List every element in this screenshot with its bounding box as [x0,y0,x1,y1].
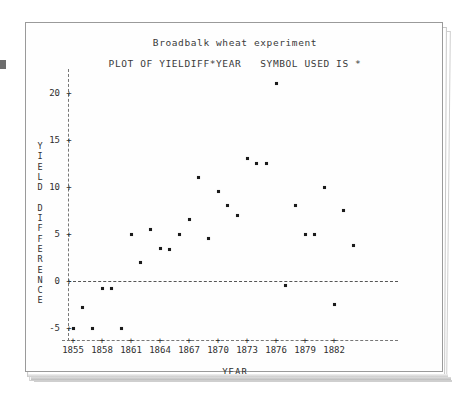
data-point [188,218,191,221]
data-point [236,214,239,217]
x-tick-mark: + [185,336,193,345]
data-point [275,82,278,85]
data-point [91,327,94,330]
data-point [352,244,355,247]
data-point [81,306,84,309]
x-tick-mark: + [156,336,164,345]
data-point [197,176,200,179]
x-tick-mark: + [98,336,106,345]
y-tick-mark: + [65,277,73,285]
data-point [139,261,142,264]
data-point [255,162,258,165]
y-tick-mark: + [65,89,73,97]
x-tick-mark: + [69,336,77,345]
data-point [226,204,229,207]
data-point [323,186,326,189]
x-tick-mark: + [272,336,280,345]
data-point [217,190,220,193]
y-tick-label: -5 [34,324,60,333]
data-point [246,157,249,160]
data-point [284,284,287,287]
plot-sheet: Broadbalk wheat experiment PLOT OF YIELD… [26,23,444,373]
x-tick-mark: + [301,336,309,345]
data-point [294,204,297,207]
data-point [178,233,181,236]
zero-reference-line [68,281,398,282]
data-point [120,327,123,330]
data-point [168,248,171,251]
data-point [72,327,75,330]
plot-area: +20+15+10+5+0+-5 +1855+1858+1861+1864+18… [26,23,444,373]
data-point [149,228,152,231]
paper-sheet-front: Broadbalk wheat experiment PLOT OF YIELD… [25,22,443,372]
paper-edge-shadow-3 [34,380,452,382]
data-point [130,233,133,236]
data-point [342,209,345,212]
data-point [265,162,268,165]
x-tick-label: 1882 [317,345,351,355]
data-point [313,233,316,236]
x-tick-mark: + [127,336,135,345]
y-tick-mark: + [65,136,73,144]
paper-stack: Broadbalk wheat experiment PLOT OF YIELD… [25,22,443,372]
x-axis-line [62,340,398,341]
y-tick-mark: + [65,230,73,238]
x-tick-mark: + [243,336,251,345]
y-axis-line [68,69,69,341]
data-point [207,237,210,240]
x-tick-mark: + [330,336,338,345]
data-point [159,247,162,250]
data-point [101,287,104,290]
data-point [333,303,336,306]
y-axis-title: Y I E L D D I F F E R E N C E [34,141,46,306]
y-tick-label: 20 [34,89,60,98]
y-tick-mark: + [65,183,73,191]
x-tick-mark: + [214,336,222,345]
data-point [110,287,113,290]
left-edge-mark [0,60,6,69]
data-point [304,233,307,236]
